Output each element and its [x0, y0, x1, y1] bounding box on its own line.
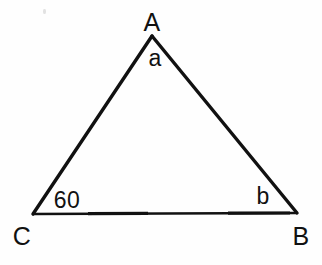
scan-speck-artifact [43, 9, 46, 14]
angle-label-a-apex: a [149, 47, 162, 70]
geometry-figure: A C B a 60 b [0, 0, 322, 265]
triangle-side-right [152, 36, 297, 213]
angle-label-b-bottom-right: b [257, 185, 270, 208]
vertex-label-a: A [144, 10, 161, 35]
triangle-side-left [33, 36, 152, 214]
vertex-label-b: B [293, 224, 310, 249]
triangle-drawing [0, 0, 322, 265]
angle-measure-label-60: 60 [54, 189, 81, 212]
vertex-label-c: C [13, 224, 31, 249]
